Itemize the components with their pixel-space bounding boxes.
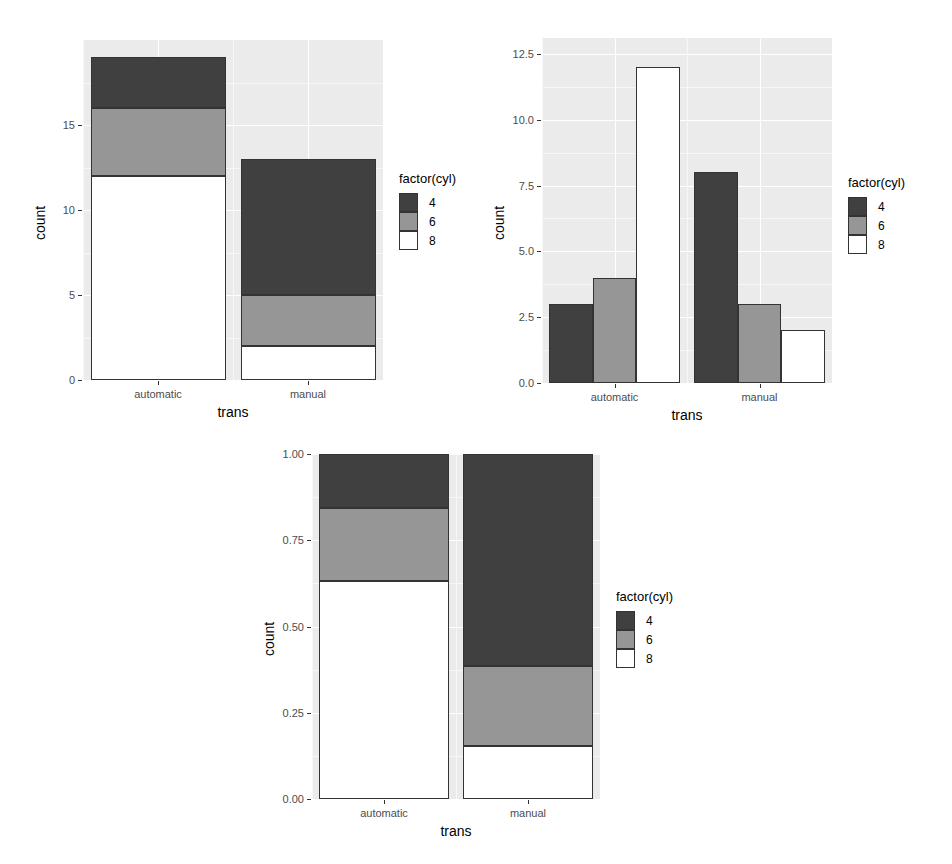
- bar-segment-automatic-cyl6: [91, 108, 226, 176]
- bar-segment-automatic-cyl8: [319, 581, 449, 799]
- chart-stacked-bar: 051015 count automaticmanual trans facto…: [0, 0, 480, 432]
- x-axis-title-filled: trans: [312, 823, 600, 839]
- x-tick-label-automatic: automatic: [134, 388, 182, 400]
- y-axis-title-filled: count: [261, 622, 277, 656]
- legend-title-filled: factor(cyl): [616, 589, 673, 604]
- legend-stacked: factor(cyl) 468: [399, 171, 456, 250]
- legend-swatch-cyl-6: [848, 216, 867, 235]
- bar-manual-cyl6: [738, 304, 782, 383]
- y-tick-mark: [537, 251, 541, 252]
- y-tick-label: 0: [0, 374, 75, 386]
- legend-row: 6: [616, 630, 673, 649]
- bar-automatic-cyl6: [593, 278, 637, 383]
- y-tick-label: 10.0: [472, 114, 534, 126]
- legend-swatch-cyl-4: [399, 193, 418, 212]
- x-tick-mark: [528, 800, 529, 804]
- x-axis-title-dodged: trans: [542, 407, 832, 423]
- x-tick-label-automatic: automatic: [360, 807, 408, 819]
- y-tick-mark: [537, 186, 541, 187]
- legend-dodged: factor(cyl) 468: [848, 175, 905, 254]
- y-tick-label: 5.0: [472, 245, 534, 257]
- y-axis-title-dodged: count: [491, 206, 507, 240]
- y-tick-label: 12.5: [472, 48, 534, 60]
- bar-segment-manual-cyl8: [463, 746, 593, 799]
- bar-segment-manual-cyl4: [241, 159, 376, 295]
- y-axis-title-stacked: count: [32, 206, 48, 240]
- bar-segment-manual-cyl8: [241, 346, 376, 380]
- legend-filled: factor(cyl) 468: [616, 589, 673, 668]
- bar-segment-manual-cyl6: [241, 295, 376, 346]
- legend-keys-dodged: 468: [848, 197, 905, 254]
- x-tick-label-automatic: automatic: [591, 391, 639, 403]
- legend-keys-filled: 468: [616, 611, 673, 668]
- y-tick-label: 0.75: [240, 534, 304, 546]
- y-tick-mark: [78, 125, 82, 126]
- legend-row: 4: [399, 193, 456, 212]
- legend-row: 6: [399, 212, 456, 231]
- x-tick-mark: [308, 381, 309, 385]
- legend-swatch-cyl-8: [848, 235, 867, 254]
- y-tick-label: 0.00: [240, 793, 304, 805]
- legend-key-label: 4: [646, 614, 653, 628]
- x-tick-mark: [760, 384, 761, 388]
- y-tick-mark: [307, 454, 311, 455]
- y-tick-mark: [307, 627, 311, 628]
- y-tick-label: 7.5: [472, 180, 534, 192]
- y-tick-mark: [78, 380, 82, 381]
- legend-row: 8: [399, 231, 456, 250]
- gridline-minor-x: [542, 38, 543, 383]
- legend-swatch-cyl-4: [616, 611, 635, 630]
- x-tick-mark: [615, 384, 616, 388]
- legend-key-label: 6: [429, 215, 436, 229]
- y-tick-label: 2.5: [472, 311, 534, 323]
- bar-automatic-cyl4: [549, 304, 593, 383]
- y-tick-mark: [307, 713, 311, 714]
- gridline-minor-x: [687, 38, 688, 383]
- y-tick-mark: [537, 383, 541, 384]
- legend-title-stacked: factor(cyl): [399, 171, 456, 186]
- plot-panel-filled: [312, 454, 600, 799]
- legend-row: 4: [848, 197, 905, 216]
- bar-segment-automatic-cyl6: [319, 508, 449, 581]
- legend-swatch-cyl-6: [399, 212, 418, 231]
- x-tick-mark: [384, 800, 385, 804]
- legend-row: 8: [848, 235, 905, 254]
- y-tick-label: 15: [0, 119, 75, 131]
- bar-manual-cyl4: [694, 172, 738, 383]
- legend-key-label: 6: [646, 633, 653, 647]
- y-tick-mark: [537, 317, 541, 318]
- legend-key-label: 8: [878, 238, 885, 252]
- x-axis-title-stacked: trans: [83, 404, 383, 420]
- y-tick-mark: [537, 120, 541, 121]
- plot-panel-stacked: [83, 40, 383, 380]
- y-tick-label: 0.0: [472, 377, 534, 389]
- legend-key-label: 8: [646, 652, 653, 666]
- bar-segment-automatic-cyl4: [319, 454, 449, 508]
- y-tick-label: 1.00: [240, 448, 304, 460]
- y-tick-mark: [78, 295, 82, 296]
- legend-row: 6: [848, 216, 905, 235]
- gridline-minor-x: [83, 40, 84, 380]
- y-tick-mark: [78, 210, 82, 211]
- legend-key-label: 8: [429, 234, 436, 248]
- legend-swatch-cyl-8: [616, 649, 635, 668]
- chart-filled-bar: 0.000.250.500.751.00 count automaticmanu…: [240, 432, 720, 864]
- legend-swatch-cyl-6: [616, 630, 635, 649]
- x-tick-label-manual: manual: [290, 388, 326, 400]
- x-tick-label-manual: manual: [741, 391, 777, 403]
- y-tick-label: 0.25: [240, 707, 304, 719]
- bar-manual-cyl8: [781, 330, 825, 383]
- plot-panel-dodged: [542, 38, 832, 383]
- legend-key-label: 6: [878, 219, 885, 233]
- legend-row: 8: [616, 649, 673, 668]
- x-tick-mark: [158, 381, 159, 385]
- bar-segment-automatic-cyl4: [91, 57, 226, 108]
- y-tick-label: 5: [0, 289, 75, 301]
- bar-segment-manual-cyl6: [463, 666, 593, 746]
- x-tick-label-manual: manual: [510, 807, 546, 819]
- legend-title-dodged: factor(cyl): [848, 175, 905, 190]
- chart-dodged-bar: 0.02.55.07.510.012.5 count automaticmanu…: [472, 0, 952, 432]
- bar-segment-automatic-cyl8: [91, 176, 226, 380]
- legend-swatch-cyl-8: [399, 231, 418, 250]
- y-tick-mark: [307, 540, 311, 541]
